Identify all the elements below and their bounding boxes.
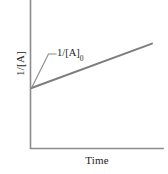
x-axis-label: Time [30, 155, 164, 166]
y-intercept-annotation: 1/[A]0 [57, 48, 84, 61]
axis-lines [31, 0, 164, 149]
y-axis-label: 1/[A] [15, 50, 26, 78]
data-line-1-over-A [32, 44, 153, 88]
annotation-subscript-text: 0 [80, 54, 84, 63]
annotation-main-text: 1/[A] [57, 47, 80, 58]
chart-figure: 1/[A]0 1/[A] Time [0, 0, 168, 174]
plot-area [0, 0, 168, 174]
axes-group [31, 0, 164, 149]
data-series-group [32, 44, 153, 88]
